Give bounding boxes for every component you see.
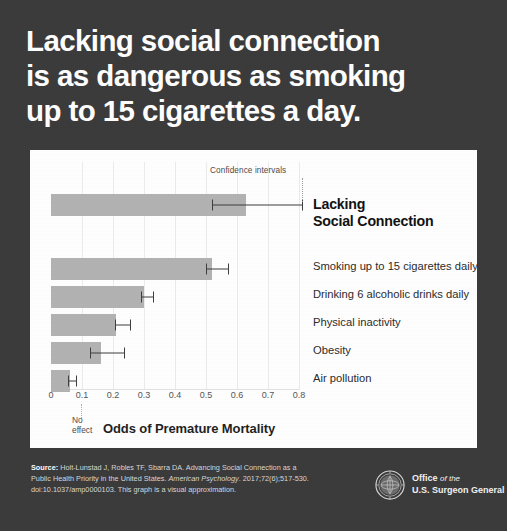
- chart-error-bar: [206, 269, 228, 270]
- source-citation: Source: Holt-Lunstad J, Robles TF, Sbarr…: [31, 462, 331, 495]
- chart-error-bar: [212, 205, 302, 206]
- chart-gridline: [299, 162, 300, 390]
- chart-bar-row: [51, 370, 299, 392]
- category-label-obesity: Obesity: [313, 344, 351, 358]
- source-line-2a: Public Health Priority in the United Sta…: [31, 474, 169, 483]
- headline-line-1: Lacking social connection: [26, 24, 481, 59]
- error-bar-cap-low: [68, 376, 69, 387]
- x-tick-label: 0.3: [138, 390, 151, 400]
- error-bar-cap-low: [212, 200, 213, 211]
- category-label-physical-inactivity: Physical inactivity: [313, 316, 401, 330]
- error-bar-cap-high: [76, 376, 77, 387]
- chart-card: Confidence intervals 00.10.20.30.40.50.6…: [30, 150, 477, 448]
- x-axis-title: Odds of Premature Mortality: [103, 421, 275, 436]
- confidence-intervals-leader-line: [302, 178, 303, 202]
- chart-bar: [51, 314, 116, 336]
- chart-bar-row: [51, 286, 299, 308]
- office-word-office: Office: [412, 473, 440, 483]
- lead-label-line-2: Social Connection: [313, 213, 433, 230]
- category-label-lacking-social-connection: Lacking Social Connection: [313, 196, 433, 231]
- source-line-1: Holt-Lunstad J, Robles TF, Sbarra DA. Ad…: [58, 463, 296, 472]
- chart-bar-row: [51, 342, 299, 364]
- chart-bar-row: [51, 194, 299, 216]
- x-tick-label: 0.4: [169, 390, 182, 400]
- office-line-2: U.S. Surgeon General: [412, 485, 505, 497]
- chart-error-bar: [141, 297, 153, 298]
- chart-bar: [51, 286, 144, 308]
- office-line-1: Office of the: [412, 473, 505, 485]
- x-tick-label: 0.5: [200, 390, 213, 400]
- lead-label-line-1: Lacking: [313, 196, 433, 213]
- office-word-of-the: of the: [440, 474, 460, 483]
- source-line-2b: . 2017;72(6);517-530.: [239, 474, 309, 483]
- no-effect-label: No effect: [72, 416, 92, 435]
- x-axis-tick-labels: 00.10.20.30.40.50.60.70.8: [51, 390, 299, 406]
- source-line-3: doi:10.1037/amp0000103. This graph is a …: [31, 485, 236, 494]
- headline-line-2: is as dangerous as smoking: [26, 59, 481, 94]
- chart-error-bar: [68, 381, 76, 382]
- chart-bar: [51, 370, 70, 392]
- x-tick-label: 0.6: [231, 390, 244, 400]
- x-tick-label: 0.1: [76, 390, 89, 400]
- error-bar-cap-low: [90, 348, 91, 359]
- x-tick-label: 0: [48, 390, 53, 400]
- page-title: Lacking social connection is as dangerou…: [26, 24, 481, 128]
- chart-plot-area: [51, 162, 299, 390]
- error-bar-cap-low: [141, 292, 142, 303]
- chart-bar-row: [51, 258, 299, 280]
- error-bar-cap-low: [206, 264, 207, 275]
- chart-error-bar: [90, 353, 124, 354]
- error-bar-cap-high: [153, 292, 154, 303]
- no-effect-line-2: effect: [72, 426, 92, 436]
- chart-bar-row: [51, 314, 299, 336]
- surgeon-general-seal-icon: [375, 470, 405, 500]
- chart-error-bar: [115, 325, 131, 326]
- x-tick-label: 0.2: [107, 390, 120, 400]
- x-tick-label: 0.7: [262, 390, 275, 400]
- error-bar-cap-high: [130, 320, 131, 331]
- headline-line-3: up to 15 cigarettes a day.: [26, 94, 481, 129]
- chart-bar: [51, 258, 212, 280]
- category-label-smoking: Smoking up to 15 cigarettes daily: [313, 260, 478, 274]
- x-tick-label: 0.8: [293, 390, 306, 400]
- error-bar-cap-low: [115, 320, 116, 331]
- category-label-drinking: Drinking 6 alcoholic drinks daily: [313, 288, 469, 302]
- confidence-intervals-annotation: Confidence intervals: [210, 166, 286, 175]
- office-surgeon-general-text: Office of the U.S. Surgeon General: [412, 473, 505, 496]
- error-bar-cap-high: [124, 348, 125, 359]
- error-bar-cap-high: [228, 264, 229, 275]
- infographic-poster: Lacking social connection is as dangerou…: [0, 0, 507, 531]
- surgeon-general-branding: Office of the U.S. Surgeon General: [375, 470, 505, 500]
- source-journal: American Psychology: [169, 474, 239, 483]
- category-label-air-pollution: Air pollution: [313, 372, 371, 386]
- source-label: Source:: [31, 463, 58, 472]
